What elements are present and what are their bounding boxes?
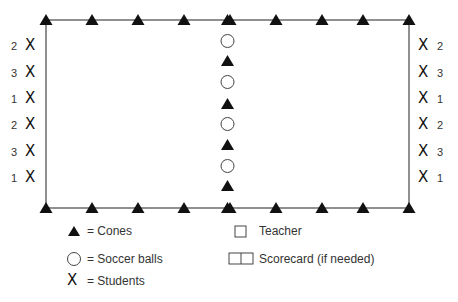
student-icon: X: [418, 91, 428, 106]
legend-student-icon: X: [67, 273, 77, 288]
field-boundary: [46, 20, 409, 208]
student-icon: X: [418, 144, 428, 159]
legend-students-label: = Students: [87, 274, 145, 288]
student-group-number: 3: [11, 67, 17, 79]
student-icon: X: [418, 170, 428, 185]
legend-cones: = Cones: [87, 224, 132, 238]
soccer-ball-icon: [221, 160, 234, 173]
student-group-number: 2: [437, 119, 443, 131]
student-icon: X: [25, 144, 35, 159]
cone-icon: [221, 98, 234, 109]
legend-balls-label: = Soccer balls: [87, 252, 163, 266]
center-column: [221, 14, 234, 213]
legend-scorecard-label: Scorecard (if needed): [259, 252, 374, 266]
student-group-number: 2: [437, 40, 443, 52]
student-icon: X: [25, 117, 35, 132]
student-icon: X: [418, 117, 428, 132]
student-icon: X: [418, 65, 428, 80]
student-group-number: 2: [11, 40, 17, 52]
soccer-ball-icon: [221, 35, 234, 48]
legend-balls: = Soccer balls: [87, 252, 163, 266]
cone-icon: [221, 139, 234, 150]
legend-teacher: Teacher: [259, 224, 302, 238]
student-group-number: 1: [11, 172, 17, 184]
legend-cone-icon: [68, 226, 80, 236]
student-icon: X: [25, 91, 35, 106]
student-icon: X: [25, 38, 35, 53]
student-icon: X: [418, 38, 428, 53]
legend-students: = Students: [87, 274, 145, 288]
legend-teacher-icon: [235, 226, 246, 237]
soccer-ball-icon: [221, 76, 234, 89]
student-group-number: 1: [11, 93, 17, 105]
legend-scorecard: Scorecard (if needed): [259, 252, 374, 266]
legend-teacher-label: Teacher: [259, 224, 302, 238]
student-group-number: 3: [11, 146, 17, 158]
legend-ball-icon: [68, 253, 81, 266]
student-icon: X: [25, 65, 35, 80]
cone-icon: [221, 180, 234, 191]
student-group-number: 3: [437, 146, 443, 158]
student-group-number: 2: [11, 119, 17, 131]
student-icon: X: [25, 170, 35, 185]
field-diagram: [0, 0, 458, 302]
student-group-number: 1: [437, 93, 443, 105]
cone-icon: [221, 55, 234, 66]
legend-cones-label: = Cones: [87, 224, 132, 238]
student-group-number: 3: [437, 67, 443, 79]
soccer-ball-icon: [221, 118, 234, 131]
student-group-number: 1: [437, 172, 443, 184]
